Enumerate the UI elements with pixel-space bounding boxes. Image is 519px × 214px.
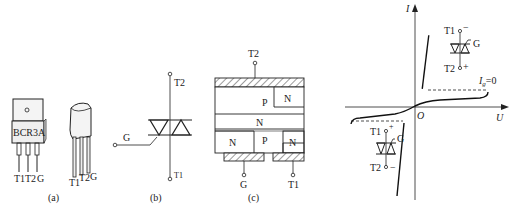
layer-upper-n: N: [284, 93, 291, 104]
panel-d: I U O Ig=0 T1 − G T2 +: [345, 3, 509, 200]
pin-label-t2: T2: [25, 173, 36, 184]
panel-b: T2 T1 G (b): [113, 72, 192, 204]
layer-upper-p: P: [262, 97, 268, 108]
package-bcr3a: BCR3A T1 T2 G: [12, 99, 46, 184]
terminal-t2: [168, 72, 172, 76]
terminal-g: [113, 143, 117, 147]
package-marking: BCR3A: [13, 127, 46, 138]
svg-text:T1: T1: [444, 25, 455, 36]
package-to92: T1 T2 G: [69, 103, 97, 188]
svg-text:−: −: [390, 162, 396, 173]
svg-text:T1: T1: [370, 126, 381, 137]
label-t2: T2: [174, 77, 185, 88]
origin-label: O: [417, 110, 424, 121]
svg-text:−: −: [463, 22, 469, 33]
layer-lower-p: P: [262, 135, 268, 146]
svg-text:+: +: [463, 61, 469, 72]
pin-label-t2: T2: [79, 172, 90, 183]
pin-label-g: G: [37, 173, 44, 184]
layer-lower-n-left: N: [229, 137, 236, 148]
quadrant1-triac-symbol: T1 − G T2 +: [444, 22, 480, 74]
caption-c: (c): [248, 192, 259, 204]
x-axis-label: U: [496, 112, 504, 123]
label-t2: T2: [248, 48, 259, 59]
label-t1: T1: [288, 179, 299, 190]
label-g: G: [240, 179, 247, 190]
panel-a: BCR3A T1 T2 G T1 T2 G (a): [12, 99, 97, 204]
caption-a: (a): [48, 192, 59, 204]
triac-figure: BCR3A T1 T2 G T1 T2 G (a) T2: [0, 0, 519, 214]
svg-text:G: G: [397, 133, 404, 144]
label-t1: T1: [174, 171, 183, 180]
terminal-t1: [168, 177, 172, 181]
svg-text:G: G: [473, 38, 480, 49]
svg-text:Ig=0: Ig=0: [478, 75, 496, 88]
label-g: G: [123, 132, 130, 143]
svg-text:T2: T2: [370, 162, 381, 173]
layer-middle-n: N: [256, 117, 263, 128]
svg-text:+: +: [389, 122, 394, 131]
pin-label-g: G: [90, 171, 97, 182]
layer-lower-n-right: N: [289, 137, 296, 148]
panel-c: T2 N P N N P N G T1 (c): [215, 48, 304, 204]
pin-label-t1: T1: [14, 173, 25, 184]
y-axis-label: I: [405, 3, 410, 14]
caption-b: (b): [150, 192, 162, 204]
quadrant3-triac-symbol: T1 + G T2 −: [370, 122, 404, 173]
svg-text:T2: T2: [444, 63, 455, 74]
